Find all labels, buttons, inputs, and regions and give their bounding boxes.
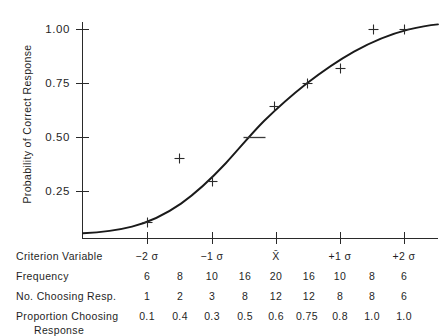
proportion-value-2: 0.4 xyxy=(163,310,197,322)
no-choosing-value-7: 8 xyxy=(323,290,357,302)
criterion-value-3: −1 σ xyxy=(195,250,229,262)
proportion-value-5: 0.6 xyxy=(259,310,293,322)
proportion-value-6: 0.75 xyxy=(290,310,324,322)
data-point-marker xyxy=(175,154,185,164)
proportion-value-4: 0.5 xyxy=(228,310,262,322)
criterion-value-7: +1 σ xyxy=(323,250,357,262)
frequency-value-2: 8 xyxy=(163,270,197,282)
ogive-curve xyxy=(83,24,438,233)
y-axis-title: Probability of Correct Response xyxy=(21,34,33,214)
data-point-marker xyxy=(369,25,379,35)
no-choosing-value-3: 3 xyxy=(195,290,229,302)
proportion-value-1: 0.1 xyxy=(130,310,164,322)
criterion-value-1: −2 σ xyxy=(130,250,164,262)
data-point-marker xyxy=(400,25,410,35)
no-choosing-value-9: 6 xyxy=(387,290,421,302)
row-label-frequency: Frequency xyxy=(16,270,69,282)
frequency-value-9: 6 xyxy=(387,270,421,282)
row-label-proportion-choosing-line2: Response xyxy=(34,324,84,336)
criterion-value-9: +2 σ xyxy=(387,250,421,262)
data-point-marker xyxy=(208,177,218,187)
data-table: Criterion Variable −2 σ −1 σ X̄ +1 σ +2 … xyxy=(0,250,442,335)
frequency-value-5: 20 xyxy=(259,270,293,282)
frequency-value-7: 10 xyxy=(323,270,357,282)
proportion-value-7: 0.8 xyxy=(323,310,357,322)
no-choosing-value-6: 12 xyxy=(292,290,326,302)
no-choosing-value-4: 8 xyxy=(228,290,262,302)
chart-svg xyxy=(0,0,442,250)
data-point-marker xyxy=(270,102,280,112)
no-choosing-value-8: 8 xyxy=(355,290,389,302)
proportion-value-3: 0.3 xyxy=(195,310,229,322)
data-point-markers xyxy=(143,25,410,228)
data-point-marker xyxy=(336,64,346,74)
no-choosing-value-1: 1 xyxy=(130,290,164,302)
frequency-value-6: 16 xyxy=(292,270,326,282)
criterion-value-5: X̄ xyxy=(259,250,293,262)
proportion-value-8: 1.0 xyxy=(355,310,389,322)
no-choosing-value-2: 2 xyxy=(163,290,197,302)
row-label-criterion-variable: Criterion Variable xyxy=(16,250,103,262)
chart-plot-area: 1.00 0.75 0.50 0.25 Probability of Corre… xyxy=(0,0,442,250)
row-label-no-choosing-resp: No. Choosing Resp. xyxy=(16,290,116,302)
frequency-value-4: 16 xyxy=(228,270,262,282)
no-choosing-value-5: 12 xyxy=(259,290,293,302)
frequency-value-8: 8 xyxy=(355,270,389,282)
row-label-proportion-choosing: Proportion Choosing xyxy=(16,310,118,322)
frequency-value-3: 10 xyxy=(195,270,229,282)
frequency-value-1: 6 xyxy=(130,270,164,282)
proportion-value-9: 1.0 xyxy=(387,310,421,322)
data-point-marker xyxy=(143,218,153,228)
